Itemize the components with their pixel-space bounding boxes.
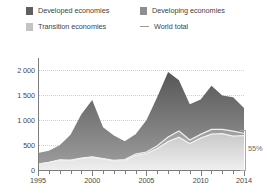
x-axis-minor-tick — [114, 171, 115, 174]
x-axis-minor-tick — [71, 171, 72, 174]
x-axis-major-tick — [92, 171, 93, 176]
x-axis-tick-label: 2010 — [193, 176, 209, 185]
y-axis-tick-label: 0 — [31, 166, 35, 175]
x-axis-minor-tick — [179, 171, 180, 174]
square-swatch-icon — [26, 7, 33, 15]
square-swatch-icon — [26, 23, 33, 31]
developing-share-bracket — [240, 130, 246, 171]
y-axis-tick-labels: 05001 0001 5002 000 — [0, 58, 35, 170]
legend-label: Developed economies — [38, 6, 109, 15]
x-axis-minor-tick — [81, 171, 82, 174]
legend-label: Transition economies — [38, 22, 106, 31]
chart-legend: Developed economies Developing economies… — [26, 6, 264, 40]
x-axis-minor-tick — [49, 171, 50, 174]
x-axis-tick-label: 2014 — [236, 176, 252, 185]
y-axis-tick-label: 2 000 — [17, 66, 35, 75]
y-axis-tick-label: 500 — [23, 141, 35, 150]
y-axis-line — [38, 58, 39, 171]
x-axis-major-tick — [146, 171, 147, 176]
x-axis-minor-tick — [60, 171, 61, 174]
x-axis-minor-tick — [222, 171, 223, 174]
x-axis-major-tick — [201, 171, 202, 176]
x-axis-tick-label: 1995 — [30, 176, 46, 185]
x-axis-minor-tick — [157, 171, 158, 174]
x-axis-minor-tick — [125, 171, 126, 174]
x-axis-minor-tick — [233, 171, 234, 174]
x-axis-tick-label: 2005 — [138, 176, 154, 185]
legend-item-developed-economies: Developed economies — [26, 6, 109, 15]
y-axis-tick-label: 1 500 — [17, 91, 35, 100]
x-axis-major-tick — [38, 171, 39, 176]
legend-item-developing-economies: Developing economies — [140, 6, 225, 15]
stacked-area-series — [38, 58, 244, 170]
y-axis-tick-label: 1 000 — [17, 116, 35, 125]
x-axis-minor-tick — [211, 171, 212, 174]
legend-item-transition-economies: Transition economies — [26, 22, 106, 31]
x-axis-minor-tick — [103, 171, 104, 174]
plot-area — [38, 58, 244, 170]
percent-annotation-label: 55% — [248, 144, 263, 153]
x-axis-major-tick — [244, 171, 245, 176]
legend-label: Developing economies — [152, 6, 225, 15]
chart-figure: Developed economies Developing economies… — [0, 0, 267, 196]
x-axis-tick-label: 2000 — [84, 176, 100, 185]
legend-label: World total — [154, 22, 188, 31]
legend-item-world-total: World total — [140, 22, 188, 31]
x-axis-tick-labels: 19952000200520102014 — [0, 176, 267, 188]
x-axis-minor-tick — [136, 171, 137, 174]
x-axis-minor-tick — [190, 171, 191, 174]
square-swatch-icon — [140, 7, 147, 15]
line-swatch-icon — [140, 23, 149, 31]
x-axis-minor-tick — [168, 171, 169, 174]
